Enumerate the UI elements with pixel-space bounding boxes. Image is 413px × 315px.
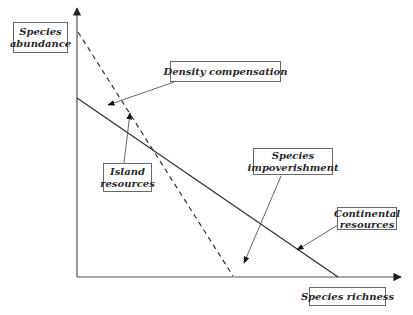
island-resources-label: Island resources [103,163,152,192]
y-axis-label-line-1: Species [19,26,61,38]
density-compensation-text: Density compensation [163,66,287,78]
island-resources-text-1: Island [110,166,145,178]
x-axis-label: Species richness [309,287,386,306]
species-impoverishment-arrow [244,176,281,263]
density-compensation-arrow [108,82,174,105]
density-compensation-label: Density compensation [170,61,281,82]
species-impoverishment-text-2: impoverishment [248,162,339,174]
x-axis-label-text: Species richness [301,291,394,303]
island-resources-arrow [124,113,130,163]
species-impoverishment-label: Species impoverishment [253,148,333,175]
y-axis-label: Species abundance [13,22,68,53]
island-resources-text-2: resources [100,178,155,190]
continental-resources-arrow [297,225,338,250]
y-axis-label-line-2: abundance [10,38,71,50]
continental-resources-text-2: resources [340,219,395,230]
continental-resources-label: Continental resources [337,207,397,230]
species-impoverishment-text-1: Species [272,150,314,162]
continental-resources-text-1: Continental [334,208,400,219]
